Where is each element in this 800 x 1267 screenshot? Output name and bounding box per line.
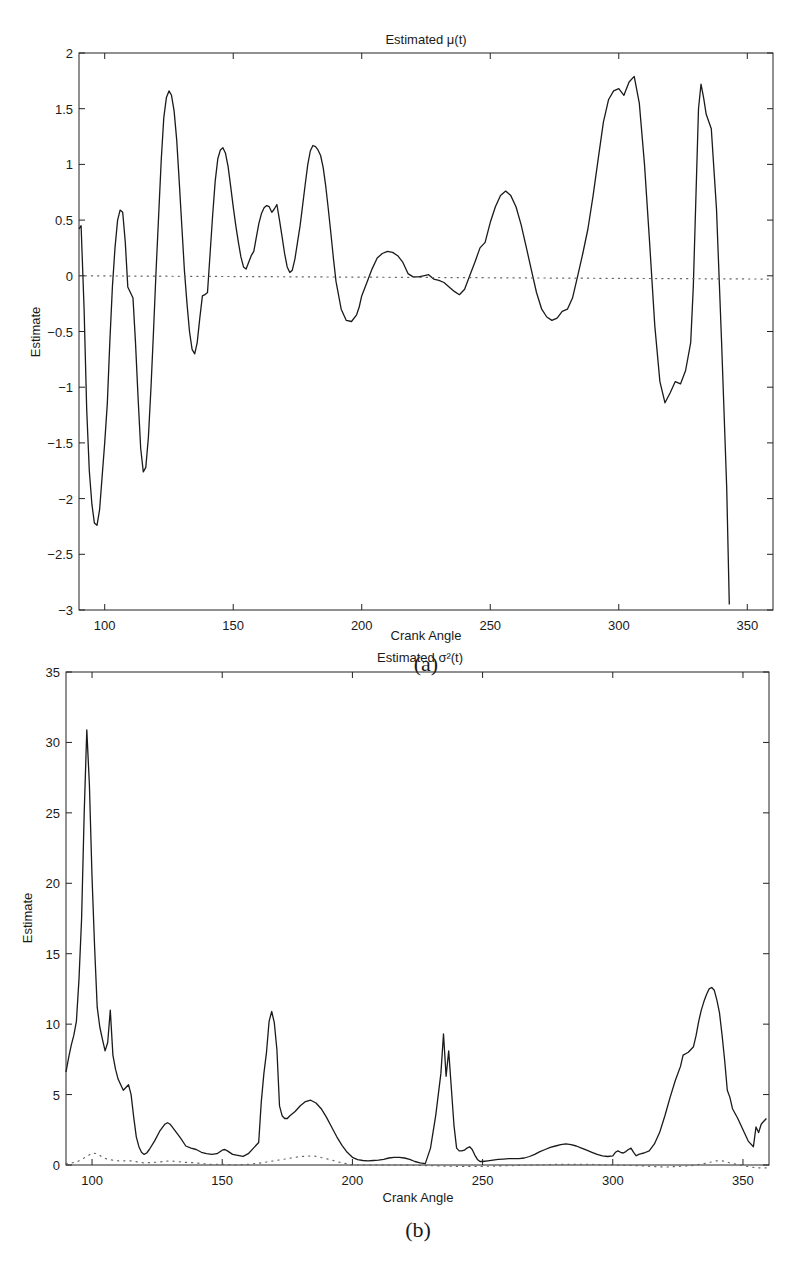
y-tick-label: −3: [58, 603, 73, 618]
y-tick-label: −2: [58, 492, 73, 507]
y-tick-label: 30: [46, 735, 60, 750]
x-tick-label: 200: [342, 1173, 364, 1188]
x-tick-label: 200: [351, 618, 373, 633]
x-axis-title-b: Crank Angle: [383, 1190, 454, 1205]
x-axis-title-a: Crank Angle: [391, 628, 462, 643]
chart-title-b: Estimated σ²(t): [377, 650, 463, 665]
y-tick-label: 25: [46, 806, 60, 821]
figure: Estimated μ(t) 100150200250300350 −3−2.5…: [0, 0, 800, 1267]
estimate-line: [79, 76, 729, 604]
estimate-line: [66, 730, 766, 1164]
y-tick-label: −1: [58, 380, 73, 395]
y-axis-title-a: Estimate: [28, 307, 43, 358]
y-tick-label: −1.5: [47, 436, 73, 451]
reference-dotted-line: [79, 276, 773, 279]
y-tick-label: 1: [66, 157, 73, 172]
y-tick-label: 0.5: [55, 213, 73, 228]
plot-area-a: [79, 53, 773, 610]
x-axis-b: 100150200250300350: [81, 672, 754, 1188]
chart-panel-a: Estimated μ(t) 100150200250300350 −3−2.5…: [28, 32, 773, 676]
x-axis-a: 100150200250300350: [94, 53, 758, 633]
x-tick-label: 250: [479, 618, 501, 633]
y-axis-a: −3−2.5−2−1.5−1−0.500.511.52: [47, 46, 773, 618]
y-tick-label: 0: [53, 1158, 60, 1173]
x-tick-label: 150: [211, 1173, 233, 1188]
y-tick-label: −0.5: [47, 325, 73, 340]
x-tick-label: 150: [222, 618, 244, 633]
x-tick-label: 100: [81, 1173, 103, 1188]
x-tick-label: 100: [94, 618, 116, 633]
y-axis-b: 05101520253035: [46, 665, 769, 1173]
y-tick-label: 35: [46, 665, 60, 680]
y-tick-label: 1.5: [55, 102, 73, 117]
y-tick-label: 0: [66, 269, 73, 284]
chart-title-a: Estimated μ(t): [385, 32, 466, 47]
y-axis-title-b: Estimate: [20, 893, 35, 944]
x-tick-label: 300: [602, 1173, 624, 1188]
caption-b: (b): [405, 1217, 431, 1242]
y-tick-label: −2.5: [47, 547, 73, 562]
y-tick-label: 15: [46, 947, 60, 962]
plot-lines-a: [79, 76, 773, 604]
y-tick-label: 2: [66, 46, 73, 61]
y-tick-label: 10: [46, 1017, 60, 1032]
plot-lines-b: [66, 730, 769, 1168]
reference-dotted-line: [66, 1153, 769, 1168]
x-tick-label: 250: [472, 1173, 494, 1188]
x-tick-label: 350: [732, 1173, 754, 1188]
plot-area-b: [66, 672, 769, 1165]
y-tick-label: 20: [46, 876, 60, 891]
y-tick-label: 5: [53, 1088, 60, 1103]
x-tick-label: 300: [608, 618, 630, 633]
chart-panel-b: Estimated σ²(t) 100150200250300350 05101…: [20, 650, 769, 1242]
x-tick-label: 350: [736, 618, 758, 633]
